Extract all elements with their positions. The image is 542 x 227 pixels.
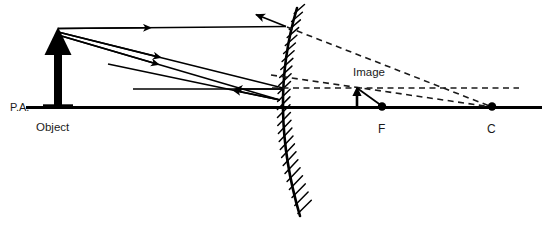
- incident-ray-to-focus-arrowhead: [58, 32, 158, 57]
- center-of-curvature-label: C: [487, 122, 496, 136]
- reflected-parallel-ray: [256, 15, 286, 27]
- object-arrow-head: [45, 27, 72, 55]
- focal-point-dot: [378, 102, 386, 110]
- optics-ray-diagram: P.A. Object Image F C: [0, 0, 542, 227]
- diagram-labels-group: P.A. Object Image F C: [10, 66, 496, 136]
- object-arrow-group: [43, 27, 73, 107]
- convex-mirror-group: [277, 5, 311, 217]
- object-label: Object: [36, 121, 70, 133]
- virtual-extension-lines-group: [271, 27, 519, 107]
- ray-diagram-container: P.A. Object Image F C: [0, 0, 542, 227]
- image-label: Image: [353, 66, 385, 78]
- focal-point-label: F: [378, 122, 385, 136]
- incident-ray-to-center-arrowhead: [58, 35, 156, 64]
- extension-from-parallel-ray: [287, 27, 492, 107]
- center-of-curvature-dot: [488, 102, 496, 110]
- principal-axis-label: P.A.: [10, 101, 29, 113]
- reflected-oblique-ray-arrowhead: [236, 91, 280, 100]
- extension-through-image-to-center: [271, 75, 492, 107]
- incident-parallel-ray-arrowhead: [58, 28, 148, 29]
